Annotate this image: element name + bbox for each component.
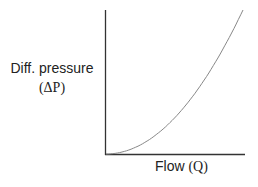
x-axis-label-symbol: (Q)	[188, 159, 207, 174]
chart: Diff. pressure (ΔP) Flow (Q)	[0, 0, 258, 187]
y-axis-label-symbol: (ΔP)	[4, 78, 100, 97]
x-axis-label-text: Flow	[155, 158, 185, 174]
y-axis-label-text: Diff. pressure	[4, 59, 100, 78]
pressure-flow-curve	[106, 10, 243, 154]
x-axis-label: Flow (Q)	[155, 158, 208, 175]
y-axis-label: Diff. pressure (ΔP)	[4, 59, 100, 97]
